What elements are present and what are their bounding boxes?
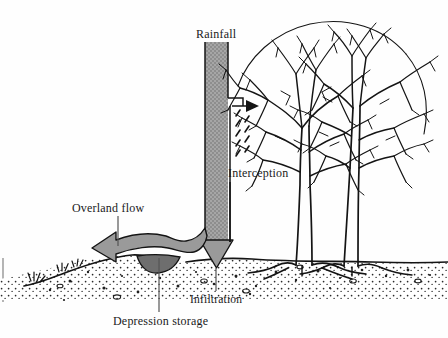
label-infiltration: Infiltration: [190, 293, 242, 305]
label-depression-storage: Depression storage: [113, 314, 208, 329]
hydrology-diagram-svg: [0, 0, 448, 338]
bare-deciduous-trees: [219, 22, 438, 279]
label-interception: Interception: [228, 166, 288, 181]
interception-arrowhead: [246, 100, 259, 112]
label-rainfall: Rainfall: [196, 27, 236, 42]
figure-canvas: Rainfall Interception Overland flow Infi…: [0, 0, 448, 338]
label-overland-flow: Overland flow: [72, 201, 144, 216]
